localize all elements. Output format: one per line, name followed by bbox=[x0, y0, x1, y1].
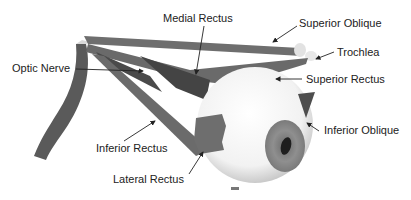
label-superior-oblique: Superior Oblique bbox=[299, 17, 382, 29]
label-lateral-rectus: Lateral Rectus bbox=[113, 173, 184, 185]
label-trochlea: Trochlea bbox=[337, 46, 379, 58]
leader-superior-oblique bbox=[273, 26, 297, 42]
lateral-rectus-muscle bbox=[194, 114, 226, 154]
eye-muscles-diagram: Medial Rectus Superior Oblique Trochlea … bbox=[0, 0, 411, 200]
label-inferior-rectus: Inferior Rectus bbox=[96, 142, 168, 154]
optic-nerve-shape bbox=[34, 40, 90, 160]
leader-inferior-rectus bbox=[124, 121, 155, 141]
trochlea-shape bbox=[294, 43, 306, 57]
label-optic-nerve: Optic Nerve bbox=[12, 62, 70, 74]
label-superior-rectus: Superior Rectus bbox=[306, 73, 385, 85]
small-mark bbox=[231, 187, 239, 190]
iris-group bbox=[265, 120, 305, 172]
label-inferior-oblique: Inferior Oblique bbox=[324, 124, 399, 136]
leader-trochlea bbox=[316, 52, 334, 59]
anatomy-illustration bbox=[0, 0, 411, 200]
label-medial-rectus: Medial Rectus bbox=[163, 12, 233, 24]
